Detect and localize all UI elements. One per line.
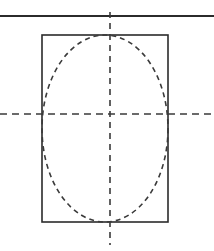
technical-drawing-canvas xyxy=(0,0,214,251)
hidden-circle-ellipse xyxy=(42,35,168,222)
drawing-svg xyxy=(0,0,214,251)
